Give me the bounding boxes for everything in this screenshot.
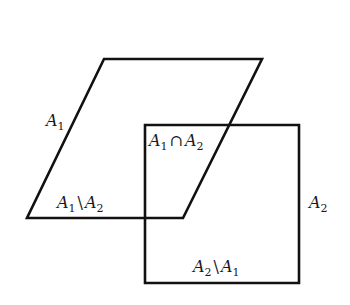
set-difference-symbol: \ xyxy=(212,257,221,276)
label-a2-minus-a1: A2\A1 xyxy=(193,259,240,275)
label-a1-minus-a2-left: A xyxy=(57,193,69,212)
set-difference-symbol: \ xyxy=(76,193,85,212)
label-intersection-left-sub: 1 xyxy=(161,140,168,153)
label-a2: A2 xyxy=(309,195,328,211)
set-diagram xyxy=(0,0,350,305)
label-a1-minus-a2-right: A xyxy=(85,193,97,212)
label-intersection: A1∩A2 xyxy=(149,133,204,149)
label-a2-minus-a1-left: A xyxy=(193,257,205,276)
label-a1-minus-a2-right-sub: 2 xyxy=(97,202,104,215)
label-intersection-left: A xyxy=(149,131,161,150)
label-a2-base: A xyxy=(309,193,321,212)
label-a1: A1 xyxy=(46,113,65,129)
label-a1-minus-a2-left-sub: 1 xyxy=(69,202,76,215)
label-intersection-right: A xyxy=(185,131,197,150)
label-a2-minus-a1-right-sub: 1 xyxy=(233,266,240,279)
intersection-symbol: ∩ xyxy=(168,131,185,150)
label-intersection-right-sub: 2 xyxy=(197,140,204,153)
label-a1-base: A xyxy=(46,111,58,130)
label-a1-minus-a2: A1\A2 xyxy=(57,195,104,211)
label-a2-sub: 2 xyxy=(321,202,328,215)
label-a2-minus-a1-left-sub: 2 xyxy=(205,266,212,279)
label-a2-minus-a1-right: A xyxy=(221,257,233,276)
label-a1-sub: 1 xyxy=(58,120,65,133)
